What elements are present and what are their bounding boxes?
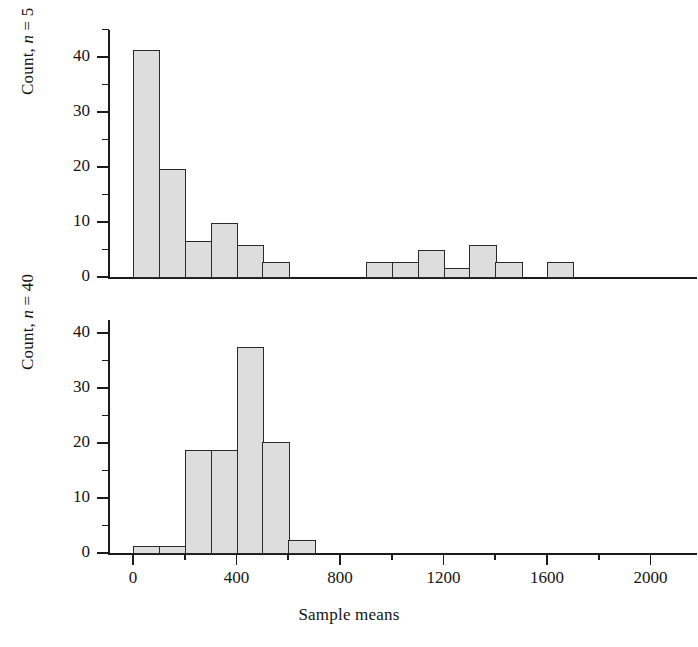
- histogram-bar: [185, 450, 212, 554]
- histogram-bar: [392, 262, 419, 278]
- y-major-tick-top-0: [97, 276, 109, 278]
- y-major-tick-top-30: [97, 111, 109, 113]
- y-axis-title-prefix-bottom: Count,: [18, 319, 37, 370]
- x-tick-label-400: 400: [192, 568, 282, 588]
- y-minor-tick-top-5: [102, 249, 109, 251]
- histogram-bar: [366, 262, 393, 278]
- x-minor-tick-1400: [494, 553, 496, 560]
- y-axis-title-top: Count, n = 5: [18, 7, 38, 95]
- histogram-bar: [159, 546, 186, 554]
- y-tick-label-top-10: 10: [40, 211, 90, 231]
- y-major-tick-bottom-40: [97, 332, 109, 334]
- x-minor-tick-1000: [391, 553, 393, 560]
- y-tick-label-bottom-30: 30: [40, 377, 90, 397]
- x-tick-label-0: 0: [88, 568, 178, 588]
- y-minor-tick-bottom-5: [102, 525, 109, 527]
- y-minor-tick-top-15: [102, 194, 109, 196]
- histogram-bar: [288, 540, 315, 554]
- histogram-bar: [262, 442, 289, 554]
- y-major-tick-bottom-30: [97, 387, 109, 389]
- histogram-bar: [237, 245, 264, 278]
- histogram-bar: [133, 546, 160, 554]
- y-tick-label-top-40: 40: [40, 46, 90, 66]
- y-axis-title-variable-top: n: [18, 35, 37, 44]
- histogram-bar: [211, 450, 238, 554]
- x-tick-label-1600: 1600: [502, 568, 592, 588]
- x-major-tick-1200: [443, 553, 445, 565]
- histogram-bar: [211, 223, 238, 278]
- x-minor-tick-1800: [598, 553, 600, 560]
- y-tick-label-bottom-10: 10: [40, 487, 90, 507]
- y-axis-title-bottom: Count, n = 40: [18, 274, 38, 370]
- x-minor-tick-600: [287, 553, 289, 560]
- histogram-bar: [418, 250, 445, 279]
- y-tick-label-top-30: 30: [40, 101, 90, 121]
- y-minor-tick-top-35: [102, 84, 109, 86]
- y-minor-tick-top-45: [102, 29, 109, 31]
- x-major-tick-800: [339, 553, 341, 565]
- y-minor-tick-bottom-35: [102, 360, 109, 362]
- cropped-caption-area: [0, 0, 698, 10]
- y-tick-label-top-0: 0: [40, 266, 90, 286]
- x-major-tick-1600: [546, 553, 548, 565]
- x-major-tick-400: [236, 553, 238, 565]
- y-tick-label-bottom-40: 40: [40, 322, 90, 342]
- histogram-bar: [159, 169, 186, 278]
- y-major-tick-bottom-10: [97, 497, 109, 499]
- y-major-tick-top-40: [97, 56, 109, 58]
- histogram-bar: [444, 268, 471, 278]
- y-minor-tick-bottom-25: [102, 415, 109, 417]
- y-major-tick-bottom-20: [97, 442, 109, 444]
- x-tick-label-800: 800: [295, 568, 385, 588]
- histogram-bar: [469, 245, 496, 278]
- x-major-tick-2000: [650, 553, 652, 565]
- y-axis-title-variable-bottom: n: [18, 310, 37, 319]
- x-axis-title: Sample means: [0, 605, 698, 625]
- y-major-tick-top-10: [97, 221, 109, 223]
- y-tick-label-bottom-20: 20: [40, 432, 90, 452]
- histogram-bar: [133, 50, 160, 278]
- y-axis-line-bottom: [108, 320, 110, 555]
- y-axis-line-top: [108, 30, 110, 279]
- histogram-bar: [185, 241, 212, 278]
- x-minor-tick-200: [184, 553, 186, 560]
- y-major-tick-bottom-0: [97, 552, 109, 554]
- y-axis-title-prefix-top: Count,: [18, 44, 37, 95]
- y-minor-tick-bottom-15: [102, 470, 109, 472]
- y-tick-label-top-20: 20: [40, 156, 90, 176]
- y-tick-label-bottom-0: 0: [40, 542, 90, 562]
- y-minor-tick-top-25: [102, 139, 109, 141]
- histogram-bar: [262, 262, 289, 278]
- y-major-tick-top-20: [97, 166, 109, 168]
- y-axis-title-suffix-bottom: = 40: [18, 274, 37, 310]
- x-tick-label-1200: 1200: [399, 568, 489, 588]
- x-tick-label-2000: 2000: [606, 568, 696, 588]
- y-axis-title-suffix-top: = 5: [18, 7, 37, 34]
- histogram-bar: [547, 262, 574, 278]
- histogram-figure: 010203040Count, n = 5010203040Count, n =…: [0, 0, 698, 647]
- x-major-tick-0: [132, 553, 134, 565]
- histogram-bar: [237, 347, 264, 554]
- histogram-bar: [495, 262, 522, 278]
